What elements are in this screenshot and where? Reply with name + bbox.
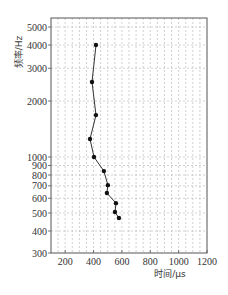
x-tick-label: 1200 [197, 256, 217, 267]
x-axis-title: 时间/μs [154, 268, 186, 279]
data-point-marker [88, 137, 92, 141]
x-tick-label: 400 [86, 256, 101, 267]
x-tick-label: 200 [58, 256, 73, 267]
data-point-marker [92, 155, 96, 159]
data-markers [88, 43, 121, 220]
y-tick-label: 400 [32, 226, 47, 237]
data-point-marker [113, 210, 117, 214]
x-tick-label: 600 [114, 256, 129, 267]
data-point-marker [117, 216, 121, 220]
y-tick-label: 1000 [27, 152, 47, 163]
y-tick-label: 500 [32, 208, 47, 219]
x-tick-label: 1000 [169, 256, 189, 267]
x-tick-label: 800 [143, 256, 158, 267]
y-tick-label: 600 [32, 193, 47, 204]
y-tick-label: 800 [32, 170, 47, 181]
y-tick-label: 5000 [27, 22, 47, 33]
data-point-marker [90, 80, 94, 84]
y-tick-label: 3000 [27, 63, 47, 74]
data-point-marker [106, 183, 110, 187]
data-point-marker [94, 113, 98, 117]
y-axis-title: 频率/Hz [13, 35, 24, 68]
y-tick-label: 4000 [27, 40, 47, 51]
data-point-marker [102, 169, 106, 173]
y-axis-ticks: 3004005006007008009001000200030004000500… [27, 22, 51, 259]
grid-lines [51, 18, 207, 253]
y-tick-label: 700 [32, 180, 47, 191]
frequency-time-chart: 3004005006007008009001000200030004000500… [0, 0, 228, 295]
data-point-marker [94, 43, 98, 47]
y-tick-label: 2000 [27, 96, 47, 107]
y-tick-label: 300 [32, 248, 47, 259]
data-point-marker [114, 201, 118, 205]
data-point-marker [105, 191, 109, 195]
